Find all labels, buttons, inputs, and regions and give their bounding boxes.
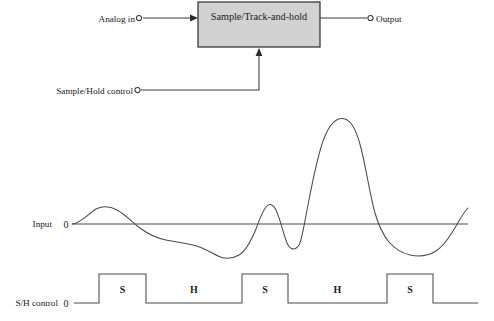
control-waveform-trace xyxy=(74,274,478,303)
input-terminal-analog-in[interactable] xyxy=(136,15,141,20)
sample-hold-control-label: Sample/Hold control xyxy=(56,86,133,96)
input-axis-label: Input xyxy=(33,219,53,229)
analog-in-arrowhead xyxy=(190,15,198,22)
diagram-canvas: Analog in Sample/Track-and-hold Output S… xyxy=(0,0,494,321)
input-terminal-sample-hold-control[interactable] xyxy=(135,87,140,92)
input-waveform-trace xyxy=(72,119,468,259)
analog-in-label: Analog in xyxy=(99,14,136,24)
block-diagram-group: Analog in Sample/Track-and-hold Output S… xyxy=(56,2,402,96)
control-segment-label-sample-3: S xyxy=(407,284,413,295)
sample-hold-control-wire xyxy=(141,56,259,90)
control-segment-label-sample-1: S xyxy=(120,284,126,295)
control-segment-label-hold-1: H xyxy=(190,284,198,295)
control-segment-label-sample-2: S xyxy=(262,284,268,295)
sample-track-hold-block-label: Sample/Track-and-hold xyxy=(211,11,307,22)
sample-hold-control-arrowhead xyxy=(256,48,263,56)
control-axis-label: S/H control xyxy=(15,298,58,308)
sample-track-hold-block[interactable] xyxy=(198,2,320,47)
input-waveform-group: Input 0 xyxy=(33,119,468,259)
control-zero-label: 0 xyxy=(64,298,69,309)
output-terminal[interactable] xyxy=(368,15,373,20)
control-segment-label-hold-2: H xyxy=(334,284,342,295)
figure-root: Analog in Sample/Track-and-hold Output S… xyxy=(0,0,494,321)
output-label: Output xyxy=(376,14,402,24)
control-waveform-group: S/H control 0 S H S H S xyxy=(15,274,478,309)
input-zero-label: 0 xyxy=(64,219,69,230)
